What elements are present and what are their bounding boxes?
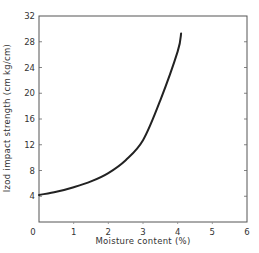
y-tick-label: 16 [24,114,35,124]
x-tick-label: 5 [210,227,215,237]
data-curve [39,33,181,195]
y-tick-label: 8 [30,166,35,176]
y-tick-label: 4 [30,191,35,201]
x-tick-label: 6 [244,227,249,237]
y-tick-label: 20 [24,88,35,98]
y-tick-label: 32 [24,11,35,21]
y-tick-label: 12 [24,140,35,150]
y-tick-label: 28 [24,37,35,47]
y-tick-label: 24 [24,63,35,73]
x-axis-ticks: 0123456 [30,222,249,237]
x-tick-label: 1 [71,227,76,237]
x-tick-label: 0 [30,227,35,237]
plot-frame [39,16,247,222]
y-axis-title: Izod impact strength (cm kg/cm) [2,44,12,192]
chart: 48121620242832 0123456 Moisture content … [0,0,259,253]
x-axis-title: Moisture content (%) [95,236,190,246]
y-axis-ticks: 48121620242832 [24,11,247,201]
